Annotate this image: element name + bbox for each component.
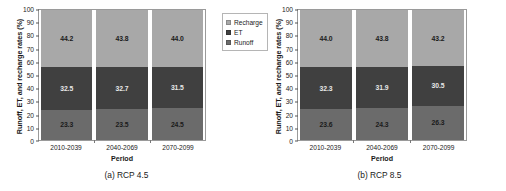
x-axis-ticks-left: 2010-2039 2040-2069 2070-2099 (38, 144, 206, 151)
legend-item-et[interactable]: ET (226, 27, 263, 37)
y-tick-label: 0 (289, 138, 293, 145)
panel-caption-right: (b) RCP 8.5 (253, 170, 506, 180)
stacked-bar[interactable]: 43.8 31.9 24.3 (356, 10, 408, 140)
x-axis-title-right: Period (297, 155, 467, 163)
x-axis-title-left: Period (38, 155, 206, 163)
bar-segment-et[interactable]: 32.5 (41, 67, 92, 109)
stacked-bar[interactable]: 44.0 32.3 23.6 (300, 10, 352, 140)
y-tick-label: 100 (23, 6, 34, 13)
bar-segment-et[interactable]: 30.5 (412, 66, 464, 106)
legend-swatch-runoff-icon (226, 40, 231, 45)
bar-segment-et[interactable]: 31.9 (356, 67, 408, 108)
y-tick-label: 60 (27, 58, 34, 65)
x-tick-label: 2040-2069 (354, 144, 410, 151)
legend-label-recharge: Recharge (234, 19, 263, 26)
panel-rcp85: Runoff, ET, and recharge rates (%) 100 9… (253, 0, 506, 191)
x-tick-label: 2040-2069 (94, 144, 149, 151)
y-tick-label: 40 (286, 85, 293, 92)
figure-stacked-bar-charts: Runoff, ET, and recharge rates (%) 100 9… (0, 0, 506, 191)
bar-value-et: 32.7 (116, 85, 129, 92)
y-tick-label: 80 (286, 32, 293, 39)
y-tick-label: 50 (286, 72, 293, 79)
legend-swatch-recharge-icon (226, 20, 231, 25)
plot-area-right: 44.0 32.3 23.6 43.8 31.9 (297, 9, 467, 141)
legend-label-runoff: Runoff (234, 39, 253, 46)
legend-item-recharge[interactable]: Recharge (226, 17, 263, 27)
legend-swatch-et-icon (226, 30, 231, 35)
bar-segment-recharge[interactable]: 43.8 (96, 10, 147, 67)
bar-segment-runoff[interactable]: 23.5 (96, 109, 147, 140)
bar-segment-recharge[interactable]: 43.8 (356, 10, 408, 67)
bar-value-et: 32.5 (60, 85, 73, 92)
y-tick-label: 10 (27, 124, 34, 131)
bar-value-recharge: 43.8 (376, 35, 389, 42)
bar-segment-et[interactable]: 32.3 (300, 67, 352, 109)
bar-value-recharge: 43.8 (116, 35, 129, 42)
y-tick-label: 0 (30, 138, 34, 145)
bar-value-et: 31.5 (171, 84, 184, 91)
stacked-bar[interactable]: 44.0 31.5 24.5 (152, 10, 203, 140)
bar-value-runoff: 24.5 (171, 121, 184, 128)
y-tick-label: 70 (286, 45, 293, 52)
bar-segment-runoff[interactable]: 24.3 (356, 108, 408, 140)
bar-value-runoff: 26.3 (432, 119, 445, 126)
bar-segment-recharge[interactable]: 44.2 (41, 10, 92, 67)
bar-segment-runoff[interactable]: 23.6 (300, 109, 352, 140)
bar-value-runoff: 23.5 (116, 121, 129, 128)
chart-legend: Recharge ET Runoff (222, 13, 268, 51)
bar-value-recharge: 44.0 (320, 35, 333, 42)
y-tick-label: 100 (282, 6, 293, 13)
y-axis-ticks-right: 100 90 80 70 60 50 40 30 20 10 0 (271, 9, 293, 141)
bar-value-recharge: 43.2 (432, 35, 445, 42)
stacked-bar[interactable]: 44.2 32.5 23.3 (41, 10, 92, 140)
x-tick-label: 2010-2039 (38, 144, 93, 151)
bar-segment-runoff[interactable]: 23.3 (41, 110, 92, 140)
bar-segment-et[interactable]: 32.7 (96, 67, 147, 110)
stacked-bar[interactable]: 43.2 30.5 26.3 (412, 10, 464, 140)
bar-value-runoff: 23.3 (60, 121, 73, 128)
bar-group-right: 44.0 32.3 23.6 43.8 31.9 (298, 10, 466, 140)
bar-value-runoff: 23.6 (320, 121, 333, 128)
y-tick-label: 90 (286, 19, 293, 26)
bar-segment-recharge[interactable]: 44.0 (300, 10, 352, 67)
bar-value-et: 31.9 (376, 84, 389, 91)
x-tick-label: 2010-2039 (297, 144, 353, 151)
y-axis-ticks-left: 100 90 80 70 60 50 40 30 20 10 0 (12, 9, 34, 141)
bar-value-runoff: 24.3 (376, 121, 389, 128)
stacked-bar[interactable]: 43.8 32.7 23.5 (96, 10, 147, 140)
y-tick-label: 20 (27, 111, 34, 118)
bar-value-et: 30.5 (432, 82, 445, 89)
y-tick-label: 20 (286, 111, 293, 118)
legend-label-et: ET (234, 29, 242, 36)
y-tick-label: 30 (27, 98, 34, 105)
bar-value-et: 32.3 (320, 85, 333, 92)
bar-segment-recharge[interactable]: 43.2 (412, 10, 464, 66)
x-tick-label: 2070-2099 (150, 144, 205, 151)
plot-area-left: 44.2 32.5 23.3 43.8 32.7 (38, 9, 206, 141)
y-tick-label: 40 (27, 85, 34, 92)
bar-value-recharge: 44.2 (60, 35, 73, 42)
bar-segment-runoff[interactable]: 24.5 (152, 108, 203, 140)
y-tick-label: 10 (286, 124, 293, 131)
panel-caption-left: (a) RCP 4.5 (0, 170, 253, 180)
legend-item-runoff[interactable]: Runoff (226, 37, 263, 47)
y-tick-label: 80 (27, 32, 34, 39)
bar-segment-runoff[interactable]: 26.3 (412, 106, 464, 140)
bar-segment-recharge[interactable]: 44.0 (152, 10, 203, 67)
y-tick-label: 50 (27, 72, 34, 79)
bar-value-recharge: 44.0 (171, 35, 184, 42)
panel-rcp45: Runoff, ET, and recharge rates (%) 100 9… (0, 0, 253, 191)
y-tick-label: 70 (27, 45, 34, 52)
y-tick-label: 90 (27, 19, 34, 26)
bar-group-left: 44.2 32.5 23.3 43.8 32.7 (39, 10, 205, 140)
x-axis-ticks-right: 2010-2039 2040-2069 2070-2099 (297, 144, 467, 151)
y-tick-label: 30 (286, 98, 293, 105)
bar-segment-et[interactable]: 31.5 (152, 67, 203, 108)
y-tick-label: 60 (286, 58, 293, 65)
x-tick-label: 2070-2099 (411, 144, 467, 151)
